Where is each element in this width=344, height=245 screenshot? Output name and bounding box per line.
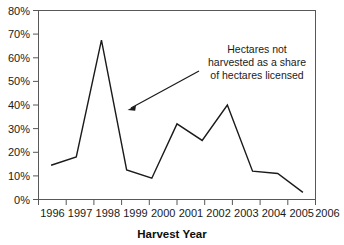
y-tick-label: 30% [8, 123, 30, 135]
y-tick-label: 20% [8, 146, 30, 158]
x-tick-label: 2001 [179, 207, 203, 219]
y-tick-label: 50% [8, 75, 30, 87]
y-tick-label: 70% [8, 28, 30, 40]
y-axis-labels: 80% 70% 60% 50% 40% 30% 20% 10% 0% [8, 5, 30, 206]
x-tick-label: 2006 [315, 207, 339, 219]
x-tick-label: 1996 [40, 207, 64, 219]
x-tick-label: 2000 [151, 207, 175, 219]
x-tick-label: 2003 [234, 207, 258, 219]
y-tick-label: 40% [8, 99, 30, 111]
y-tick-label: 80% [8, 5, 30, 17]
x-axis-ticks [39, 200, 316, 206]
annotation-line: harvested as a share [208, 56, 306, 68]
x-axis-labels: 1996 1997 1998 1999 2000 2001 2002 2003 … [40, 207, 340, 219]
x-tick-label: 1998 [96, 207, 120, 219]
y-axis-ticks [33, 11, 39, 200]
y-tick-label: 0% [14, 194, 30, 206]
plot-frame [39, 11, 316, 200]
line-chart: 80% 70% 60% 50% 40% 30% 20% 10% 0% 19 [0, 0, 344, 245]
annotation-line: of hectares licensed [210, 69, 304, 81]
x-axis-title: Harvest Year [137, 228, 207, 240]
x-tick-label: 2005 [289, 207, 313, 219]
x-tick-label: 1999 [123, 207, 147, 219]
x-tick-label: 1997 [68, 207, 92, 219]
annotation-line: Hectares not [227, 43, 287, 55]
x-tick-label: 2004 [262, 207, 286, 219]
chart-screenshot: 80% 70% 60% 50% 40% 30% 20% 10% 0% 19 [0, 0, 344, 245]
x-tick-label: 2002 [206, 207, 230, 219]
y-tick-label: 60% [8, 52, 30, 64]
y-tick-label: 10% [8, 170, 30, 182]
